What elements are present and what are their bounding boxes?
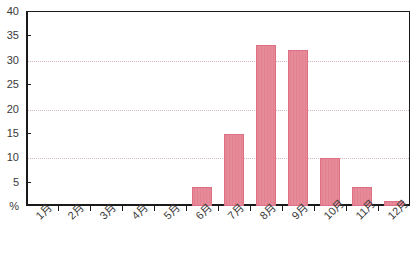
- x-tick-mark: [218, 206, 219, 211]
- bar: [256, 45, 276, 206]
- x-tick-mark: [58, 206, 59, 211]
- x-tick-mark: [122, 206, 123, 211]
- x-tick-mark: [250, 206, 251, 211]
- bar: [224, 134, 244, 206]
- x-tick-mark: [186, 206, 187, 211]
- y-axis: %510152025303540: [0, 0, 26, 215]
- y-tick-label: 40: [7, 6, 19, 17]
- y-tick-mark: [26, 182, 31, 183]
- x-tick-mark: [378, 206, 379, 211]
- y-tick-label: 10: [7, 152, 19, 163]
- y-tick-label: 20: [7, 103, 19, 114]
- y-tick-mark: [26, 35, 31, 36]
- y-tick-label: 15: [7, 127, 19, 138]
- bar-series: [26, 11, 410, 206]
- x-tick-mark: [282, 206, 283, 211]
- x-tick-mark: [346, 206, 347, 211]
- y-tick-label: 35: [7, 30, 19, 41]
- y-tick-label: %: [9, 201, 19, 212]
- bar-chart: %510152025303540 1月2月3月4月5月6月7月8月9月10月11…: [0, 0, 418, 260]
- y-tick-label: 30: [7, 54, 19, 65]
- x-tick-mark: [90, 206, 91, 211]
- bar: [288, 50, 308, 206]
- x-tick-mark: [154, 206, 155, 211]
- y-tick-label: 25: [7, 79, 19, 90]
- y-tick-label: 5: [13, 176, 19, 187]
- y-tick-mark: [26, 133, 31, 134]
- x-tick-mark: [314, 206, 315, 211]
- y-tick-mark: [26, 84, 31, 85]
